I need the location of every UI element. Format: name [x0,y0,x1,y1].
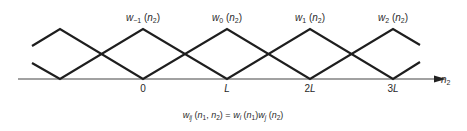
window-curve-series-a [32,29,420,79]
curve-label-w0: w0 (n2) [212,13,242,23]
separable-window-formula: wij (n1, n2) = wi (n1)wj (n2) [183,110,284,120]
curve-label-w-minus1: w−1 (n2) [126,13,160,23]
tick-label-L: L [224,84,230,94]
window-curve-series-b [32,29,420,79]
curve-label-w1: w1 (n2) [295,13,325,23]
tick-label-0: 0 [140,84,146,94]
curve-label-w2: w2 (n2) [378,13,408,23]
tick-label-2L: 2L [304,84,315,94]
tick-label-3L: 3L [387,84,398,94]
axis-label-n2: n2 [441,74,450,85]
window-function-diagram: w−1 (n2) w0 (n2) w1 (n2) w2 (n2) 0 L 2L … [0,0,467,131]
